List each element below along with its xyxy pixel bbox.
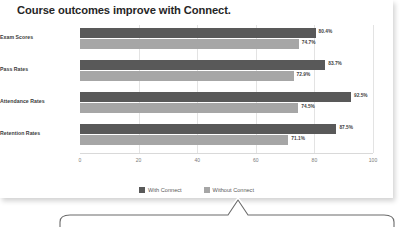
bar-value-label: 72.9% <box>297 72 311 77</box>
gridline <box>373 25 374 153</box>
legend-item-without-connect[interactable]: Without Connect <box>204 187 254 193</box>
plot-area: Exam Scores80.4%74.7%Pass Rates83.7%72.9… <box>80 25 373 153</box>
bar[interactable] <box>80 60 325 70</box>
x-axis-line <box>80 153 373 154</box>
x-tick-label: 100 <box>369 157 377 163</box>
category-label: Pass Rates <box>0 66 74 72</box>
bar[interactable] <box>80 103 298 113</box>
bar[interactable] <box>80 71 294 81</box>
callout-bubble <box>0 196 401 227</box>
chart-legend: With Connect Without Connect <box>0 187 393 193</box>
chart-card: Course outcomes improve with Connect. Ex… <box>0 0 393 198</box>
legend-swatch-icon <box>139 187 145 193</box>
legend-item-with-connect[interactable]: With Connect <box>139 187 182 193</box>
x-tick-label: 0 <box>79 157 82 163</box>
category-label: Attendance Rates <box>0 98 74 104</box>
bar-value-label: 71.1% <box>291 136 305 141</box>
legend-label: Without Connect <box>213 187 254 193</box>
bar-group: Exam Scores80.4%74.7% <box>80 25 373 57</box>
bar-value-label: 87.5% <box>339 125 353 130</box>
x-tick-label: 40 <box>194 157 200 163</box>
bar-group: Attendance Rates92.5%74.5% <box>80 89 373 121</box>
bar[interactable] <box>80 28 316 38</box>
x-tick-label: 80 <box>312 157 318 163</box>
bar-value-label: 83.7% <box>328 61 342 66</box>
page-title: Course outcomes improve with Connect. <box>17 4 231 16</box>
bar-group: Pass Rates83.7%72.9% <box>80 57 373 89</box>
bar-value-label: 92.5% <box>354 93 368 98</box>
bar-value-label: 80.4% <box>319 29 333 34</box>
bar[interactable] <box>80 92 351 102</box>
bar-value-label: 74.7% <box>302 40 316 45</box>
slide-canvas: Course outcomes improve with Connect. Ex… <box>0 0 401 227</box>
bar-value-label: 74.5% <box>301 104 315 109</box>
bar[interactable] <box>80 39 299 49</box>
legend-label: With Connect <box>148 187 182 193</box>
x-tick-label: 60 <box>253 157 259 163</box>
category-label: Exam Scores <box>0 34 74 40</box>
x-tick-label: 20 <box>136 157 142 163</box>
bar-group: Retention Rates87.5%71.1% <box>80 121 373 153</box>
category-label: Retention Rates <box>0 130 74 136</box>
bar[interactable] <box>80 135 288 145</box>
legend-swatch-icon <box>204 187 210 193</box>
bar[interactable] <box>80 124 336 134</box>
